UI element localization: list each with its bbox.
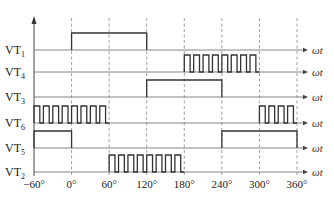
signal-rows: VT1ωtVT4ωtVT3ωtVT6ωtVT5ωtVT2ωt [5,33,324,181]
chopped-pulse-train [34,106,109,123]
y-axis-arrow-icon [32,16,37,24]
signal-label-vt4: VT4 [5,65,25,81]
signal-row-vt1: VT1ωt [5,33,324,59]
signal-label-vt5: VT5 [5,141,25,157]
baseline-arrow-icon [303,48,308,52]
signal-label-vt6: VT6 [5,116,25,132]
signal-row-vt3: VT3ωt [5,80,324,106]
signal-row-vt6: VT6ωt [5,106,324,132]
baseline-arrow-icon [303,95,308,99]
omega-t-label: ωt [312,44,324,56]
omega-t-label: ωt [312,91,324,103]
tick-label-240deg: 240° [211,178,232,190]
chopped-pulse-train [184,55,259,72]
tick-label-0deg: 0° [67,178,77,190]
vertical-axis [32,16,37,176]
signal-label-vt2: VT2 [5,165,25,181]
tick-label-300deg: 300° [249,178,270,190]
signal-row-vt5: VT5ωt [5,131,324,157]
conduction-pulse [147,80,222,97]
chopped-pulse-train [259,106,297,123]
tick-label--60deg: −60° [23,178,45,190]
tick-label-180deg: 180° [174,178,195,190]
signal-row-vt2: VT2ωt [5,155,324,181]
x-axis-tick-labels: −60°0°60°120°180°240°300°360° [23,178,307,190]
tick-label-60deg: 60° [101,178,116,190]
baseline-arrow-icon [303,170,308,174]
omega-t-label: ωt [312,142,324,154]
signal-row-vt4: VT4ωt [5,55,324,81]
chopped-pulse-train [109,155,184,172]
tick-label-120deg: 120° [136,178,157,190]
omega-t-label: ωt [312,117,324,129]
conduction-pulse [34,131,72,148]
signal-label-vt1: VT1 [5,43,25,59]
baseline-arrow-icon [303,146,308,150]
six-switch-gating-timing-diagram: VT1ωtVT4ωtVT3ωtVT6ωtVT5ωtVT2ωt −60°0°60°… [0,0,334,197]
omega-t-label: ωt [312,166,324,178]
tick-label-360deg: 360° [287,178,308,190]
signal-label-vt3: VT3 [5,90,25,106]
omega-t-label: ωt [312,66,324,78]
baseline-arrow-icon [303,121,308,125]
baseline-arrow-icon [303,70,308,74]
